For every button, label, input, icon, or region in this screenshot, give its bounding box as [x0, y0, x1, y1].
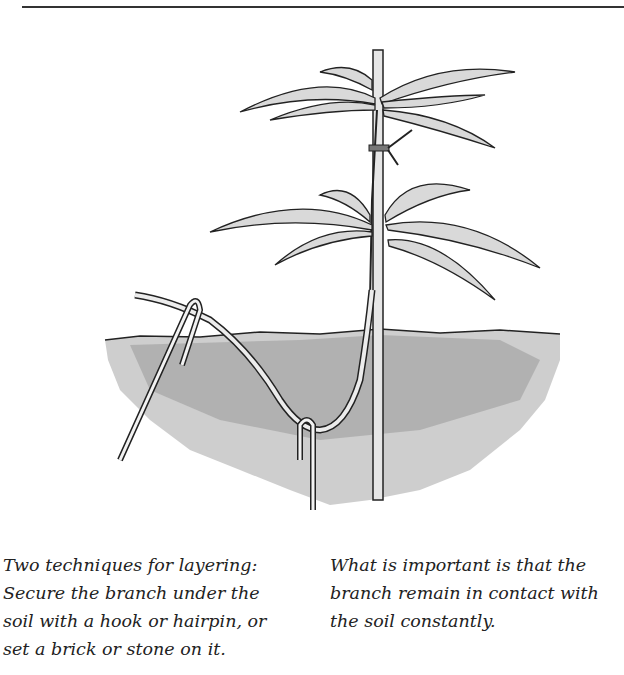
- caption-left: Two techniques for layering: Secure the …: [3, 551, 303, 663]
- caption-line: set a brick or stone on it.: [3, 635, 303, 663]
- caption-line: What is important is that the: [330, 551, 624, 579]
- caption-line: the soil constantly.: [330, 607, 624, 635]
- caption-line: branch remain in contact with: [330, 579, 624, 607]
- caption-line: Secure the branch under the: [3, 579, 303, 607]
- support-stake: [373, 50, 383, 500]
- caption-line: soil with a hook or hairpin, or: [3, 607, 303, 635]
- caption-right: What is important is that the branch rem…: [330, 551, 624, 635]
- soil: [105, 329, 560, 505]
- caption-line: Two techniques for layering:: [3, 551, 303, 579]
